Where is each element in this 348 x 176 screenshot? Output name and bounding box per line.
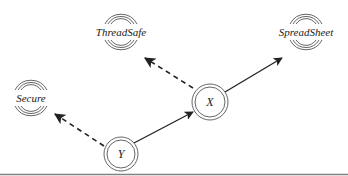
node-x[interactable]: X — [192, 84, 228, 120]
edge-y-to-x — [134, 112, 193, 143]
node-label: Y — [118, 147, 126, 161]
diagram-canvas: ThreadSafe SpreadSheet Secure X — [0, 0, 348, 176]
node-label: ThreadSafe — [96, 26, 146, 38]
node-y[interactable]: Y — [104, 137, 138, 171]
node-spreadsheet[interactable]: SpreadSheet — [279, 14, 335, 50]
edge-x-to-threadsafe — [145, 58, 193, 88]
edge-x-to-spreadsheet — [225, 58, 282, 92]
edge-y-to-secure — [55, 114, 104, 146]
node-secure[interactable]: Secure — [15, 80, 47, 116]
node-label: X — [205, 95, 214, 109]
node-label: SpreadSheet — [279, 26, 335, 38]
node-threadsafe[interactable]: ThreadSafe — [96, 14, 146, 50]
node-label: Secure — [16, 92, 46, 104]
